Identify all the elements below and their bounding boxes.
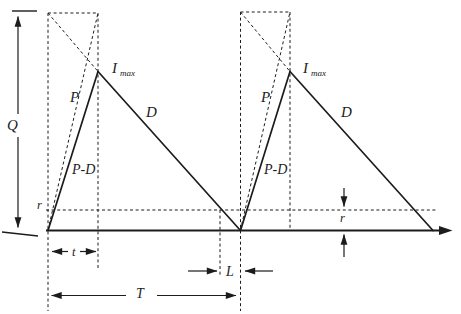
- cycle2-production-rate-dashed: [241, 12, 291, 230]
- cycle2-production-label: P: [260, 89, 270, 105]
- cycle1-net-buildup-label: P-D: [71, 162, 95, 177]
- production-time-dimension: t: [52, 245, 96, 259]
- reorder-level: r: [37, 198, 438, 277]
- cycle2-net-buildup-label: P-D: [263, 162, 287, 177]
- cycle1-depletion-line: [98, 72, 241, 231]
- cycle2-max-inventory-label: I: [302, 60, 309, 76]
- time-axis: [46, 226, 453, 235]
- lead-time-label: L: [225, 264, 234, 279]
- reorder-level-right-label: r: [340, 211, 345, 225]
- cycle1-production-label: P: [69, 89, 79, 105]
- reorder-level-left-label: r: [37, 198, 42, 212]
- cycle2-demand-during-production-dashed: [241, 12, 291, 72]
- q-dimension: Q: [2, 11, 38, 236]
- cycle-length-label: T: [136, 286, 145, 301]
- inventory-cycle-1: P P-D D I max: [48, 13, 241, 311]
- inventory-cycle-2: P P-D D I max: [241, 12, 434, 311]
- cycle1-max-inventory-label: I: [111, 60, 118, 76]
- production-time-label: t: [72, 245, 76, 259]
- inventory-model-diagram: Q r P P-D D I max: [0, 0, 461, 314]
- cycle1-max-inventory-subscript: max: [120, 68, 135, 78]
- q-label: Q: [7, 117, 18, 133]
- cycle2-depletion-line: [290, 72, 433, 231]
- cycle1-demand-during-production-dashed: [48, 13, 98, 72]
- reorder-level-annotation: r: [340, 188, 345, 257]
- time-axis-arrowhead: [439, 226, 453, 235]
- inventory-model-figure: Q r P P-D D I max: [0, 0, 461, 314]
- cycle1-production-rate-dashed: [48, 13, 98, 230]
- lead-time-dimension: L: [188, 264, 273, 279]
- cycle2-max-inventory-subscript: max: [311, 68, 326, 78]
- q-bottom-tick: [2, 232, 38, 236]
- cycle1-demand-label: D: [145, 104, 157, 120]
- cycle-length-dimension: T: [52, 286, 237, 301]
- cycle2-demand-label: D: [340, 104, 352, 120]
